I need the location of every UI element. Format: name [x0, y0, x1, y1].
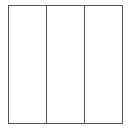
column-1 [9, 6, 46, 123]
three-column-frame [8, 5, 123, 124]
column-2 [46, 6, 84, 123]
column-3 [84, 6, 122, 123]
